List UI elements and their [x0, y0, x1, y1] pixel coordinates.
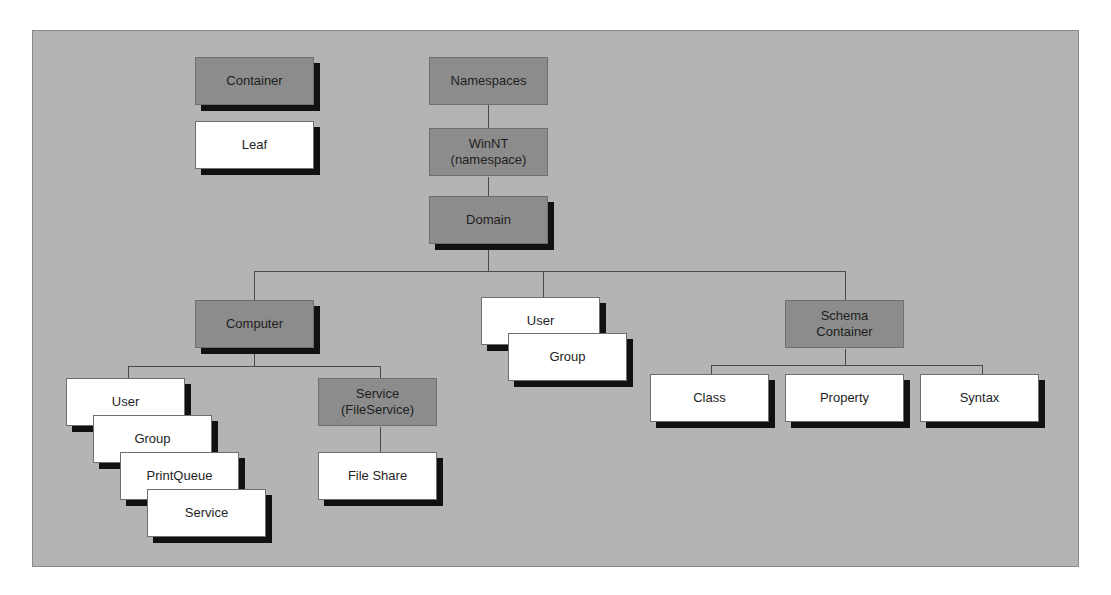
node-class[interactable]: Class: [650, 374, 769, 422]
connector: [982, 365, 983, 374]
connector: [711, 365, 712, 374]
legend-leaf: Leaf: [195, 121, 314, 169]
node-label: Container: [816, 324, 872, 340]
connector: [380, 427, 381, 452]
node-label: WinNT: [469, 136, 509, 152]
legend-container: Container: [195, 57, 314, 105]
connector: [380, 366, 381, 378]
connector: [254, 348, 255, 366]
connector: [254, 271, 846, 272]
node-domain[interactable]: Domain: [429, 196, 548, 244]
node-syntax[interactable]: Syntax: [920, 374, 1039, 422]
connector: [128, 366, 381, 367]
connector: [711, 365, 983, 366]
node-property[interactable]: Property: [785, 374, 904, 422]
node-label: (namespace): [451, 152, 527, 168]
connector: [845, 271, 846, 300]
connector: [254, 271, 255, 300]
node-label: (FileService): [341, 402, 414, 418]
connector: [543, 271, 544, 297]
connector: [845, 349, 846, 365]
node-label: Schema: [821, 308, 869, 324]
node-namespaces[interactable]: Namespaces: [429, 57, 548, 105]
connector: [488, 177, 489, 196]
node-domain-group[interactable]: Group: [508, 333, 627, 381]
connector: [128, 366, 129, 378]
node-file-share[interactable]: File Share: [318, 452, 437, 500]
node-winnt[interactable]: WinNT (namespace): [429, 128, 548, 176]
connector: [488, 105, 489, 128]
node-label: Service: [356, 386, 399, 402]
node-schema-container[interactable]: Schema Container: [785, 300, 904, 348]
node-computer[interactable]: Computer: [195, 300, 314, 348]
node-computer-service[interactable]: Service: [147, 489, 266, 537]
connector: [488, 245, 489, 271]
node-service-fileservice[interactable]: Service (FileService): [318, 378, 437, 426]
